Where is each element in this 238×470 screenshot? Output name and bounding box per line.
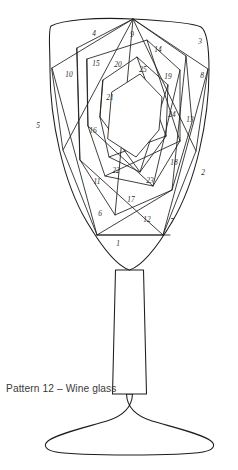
segment-label-22: 22 (112, 166, 120, 175)
segment-label-19: 19 (164, 72, 172, 81)
segment-label-6: 6 (98, 209, 102, 218)
pattern-sheet: 1 2 3 4 5 6 7 8 9 10 11 12 13 14 15 16 1… (0, 0, 238, 470)
segment-label-7: 7 (170, 217, 174, 226)
segment-label-20: 20 (114, 60, 122, 69)
segment-label-15: 15 (92, 59, 100, 68)
glass-foot (45, 394, 213, 455)
segment-label-4: 4 (92, 29, 96, 38)
segment-label-21: 21 (106, 93, 113, 102)
segment-label-18: 18 (170, 158, 178, 167)
segment-label-24: 24 (168, 110, 176, 119)
segment-label-8: 8 (200, 71, 204, 80)
segment-label-11: 11 (94, 177, 101, 186)
segment-label-5: 5 (36, 121, 40, 130)
segment-label-3: 3 (197, 37, 202, 46)
segment-label-17: 17 (127, 195, 135, 204)
segment-label-2: 2 (201, 168, 205, 177)
glass-stem (113, 270, 147, 394)
segment-label-14: 14 (154, 45, 162, 54)
glass-stem-group (113, 270, 147, 394)
segment-label-16: 16 (89, 126, 97, 135)
glass-foot-group (45, 394, 213, 455)
segment-label-9: 9 (130, 30, 134, 39)
segment-label-13: 13 (186, 115, 194, 124)
segment-label-23: 23 (146, 176, 154, 185)
wine-glass-diagram: 1 2 3 4 5 6 7 8 9 10 11 12 13 14 15 16 1… (0, 0, 238, 470)
segment-label-25: 25 (139, 65, 147, 74)
segment-label-12: 12 (143, 215, 151, 224)
pattern-caption: Pattern 12 – Wine glass (6, 383, 116, 394)
segment-label-10: 10 (65, 70, 73, 79)
segment-label-1: 1 (116, 239, 120, 248)
